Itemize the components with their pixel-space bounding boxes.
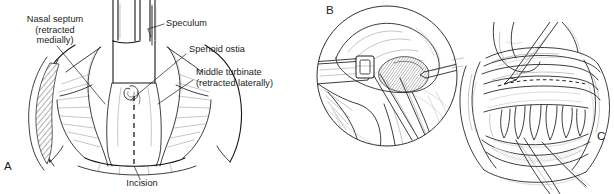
speculum-blades-icon (113, 0, 155, 43)
label-middle-turbinate: Middle turbinate (retracted laterally) (196, 67, 314, 88)
turbinate-left-fan (57, 47, 101, 158)
lower-lip-tongue (482, 140, 590, 167)
label-incision: Incision (112, 178, 172, 189)
label-nasal-septum: Nasal septum (retracted medially) (8, 14, 102, 46)
gingiva-mucosa (482, 64, 600, 108)
panel-b-artwork (308, 0, 466, 152)
retracted-ala-hatched (29, 57, 59, 170)
panel-letter-b: B (326, 4, 334, 16)
panel-letter-a: A (4, 160, 12, 172)
upper-instrument (504, 22, 581, 84)
panel-c-edge-ticks (452, 56, 468, 80)
right-retractor-blade (572, 60, 610, 172)
panel-c-artwork (458, 22, 614, 194)
leader-lines (57, 24, 193, 179)
panel-c-intraoral-sublabial-view: C (458, 22, 614, 194)
label-speculum: Speculum (166, 18, 286, 29)
panel-b-endoscopic-circular-view: B (308, 0, 466, 152)
upper-teeth-row (484, 105, 588, 148)
label-sphenoid-ostia: Spenoid ostia (189, 44, 309, 55)
surgical-figure: Nasal septum (retracted medially) Specul… (0, 0, 614, 194)
panel-a-nasal-speculum-view: Nasal septum (retracted medially) Specul… (0, 0, 310, 194)
turbinate-right-fan (167, 47, 211, 158)
sphenoid-ostia-detail (124, 86, 140, 106)
panel-letter-c: C (597, 130, 605, 142)
